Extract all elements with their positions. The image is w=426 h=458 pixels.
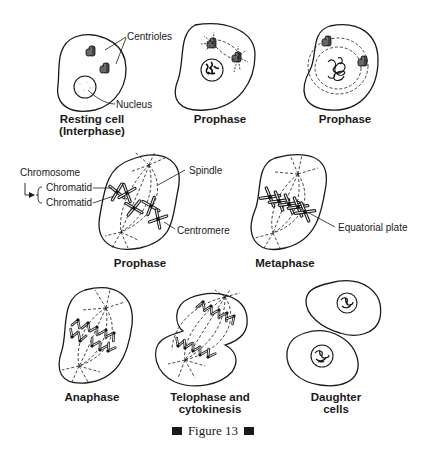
label-chromatid-2: Chromatid <box>46 197 92 208</box>
label-spindle: Spindle <box>189 165 222 176</box>
stage-label-interphase: Resting cell (Interphase) <box>50 113 134 137</box>
stage-label-line: cells <box>296 403 376 415</box>
cell-anaphase <box>59 288 132 383</box>
centriole-icon <box>86 46 95 56</box>
stage-label-line: Anaphase <box>52 391 132 403</box>
stage-label-line: Telophase and <box>160 391 260 403</box>
stage-label-line: Prophase <box>180 113 260 125</box>
centriole-icon <box>358 56 367 66</box>
stage-label-line: cytokinesis <box>160 403 260 415</box>
stage-label-line: Metaphase <box>245 257 325 269</box>
centriole-icon <box>232 52 241 62</box>
stage-label-prophase-early: Prophase <box>180 113 260 125</box>
cell-metaphase <box>251 155 335 250</box>
label-centromere: Centromere <box>177 225 230 236</box>
mitosis-diagram: Centrioles Nucleus Chromosome Chromatid … <box>0 0 426 458</box>
centriole-icon <box>100 63 109 73</box>
stage-label-line: (Interphase) <box>50 125 134 137</box>
chromosome-shapes <box>260 188 314 221</box>
stage-label-prophase-mid: Prophase <box>305 113 385 125</box>
label-centrioles: Centrioles <box>127 31 172 42</box>
cell-telophase <box>156 290 248 386</box>
stage-label-anaphase: Anaphase <box>52 391 132 403</box>
chromosome-shapes <box>110 184 167 228</box>
centriole-icon <box>322 36 331 46</box>
label-equatorial-plate: Equatorial plate <box>338 222 408 233</box>
stage-label-prophase-late: Prophase <box>100 257 180 269</box>
square-bullet-icon <box>244 427 254 435</box>
label-nucleus: Nucleus <box>116 99 152 110</box>
stage-label-metaphase: Metaphase <box>245 257 325 269</box>
stage-label-line: Daughter <box>296 391 376 403</box>
label-chromatid-1: Chromatid <box>46 182 92 193</box>
caption-text: Figure 13 <box>188 423 238 438</box>
figure-caption: Figure 13 <box>0 423 426 439</box>
cell-prophase-early <box>175 24 255 110</box>
label-chromosome: Chromosome <box>20 167 80 178</box>
square-bullet-icon <box>172 427 182 435</box>
stage-label-line: Prophase <box>305 113 385 125</box>
stage-label-line: Resting cell <box>50 113 134 125</box>
cell-prophase-mid <box>304 25 378 110</box>
stage-label-daughter: Daughter cells <box>296 391 376 415</box>
stage-label-telophase: Telophase and cytokinesis <box>160 391 260 415</box>
cell-daughter <box>287 281 381 386</box>
chromosome-shapes <box>174 299 238 360</box>
stage-label-line: Prophase <box>100 257 180 269</box>
